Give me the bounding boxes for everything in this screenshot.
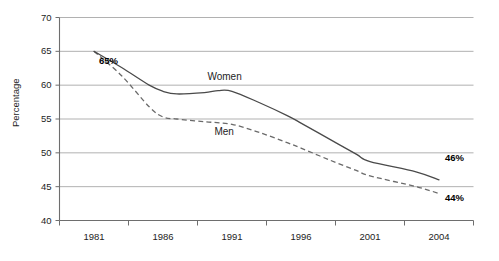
value-annotation: 65% (99, 56, 118, 66)
x-axis-ticks-group (60, 221, 474, 226)
series-line-men (94, 51, 439, 193)
y-axis-title: Percentage (11, 65, 21, 141)
series-label-women: Women (207, 72, 241, 82)
chart-plot-area (0, 0, 499, 261)
x-axis-tick-label: 1986 (133, 232, 193, 242)
value-annotation: 44% (445, 193, 464, 203)
y-axis-tick-label: 65 (26, 46, 52, 56)
y-axis-tick-label: 40 (26, 216, 52, 226)
y-axis-tick-label: 45 (26, 182, 52, 192)
x-axis-tick-label: 1981 (64, 232, 124, 242)
x-axis-tick-label: 1996 (271, 232, 331, 242)
series-line-women (94, 51, 439, 180)
x-axis-tick-label: 2004 (409, 232, 469, 242)
y-axis-tick-label: 60 (26, 80, 52, 90)
value-annotation: 46% (445, 153, 464, 163)
series-label-men: Men (214, 127, 233, 137)
gridlines-group (60, 18, 474, 187)
y-axis-tick-label: 70 (26, 13, 52, 23)
line-chart-figure: Percentage 70656055504540 19811986199119… (0, 0, 499, 261)
y-axis-tick-label: 50 (26, 148, 52, 158)
y-axis-tick-label: 55 (26, 114, 52, 124)
x-axis-tick-label: 1991 (202, 232, 262, 242)
x-axis-tick-label: 2001 (340, 232, 400, 242)
